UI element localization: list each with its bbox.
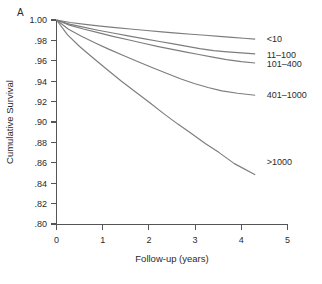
y-tick-label: 1.00	[29, 15, 47, 25]
survival-curves-group	[57, 20, 256, 175]
curve-labels-group: <1011–100101–400401–1000>1000	[267, 34, 307, 167]
y-tick-label: .96	[34, 56, 47, 66]
y-tick-label: .86	[34, 158, 47, 168]
curve-label: 101–400	[267, 59, 302, 69]
x-tick-label: 0	[54, 235, 59, 245]
y-tick-label: .80	[34, 219, 47, 229]
x-tick-label: 4	[239, 235, 244, 245]
survival-plot: A Cumulative Survival Follow-up (years) …	[0, 0, 322, 284]
curve-label: <10	[267, 34, 282, 44]
x-tick-label: 3	[193, 235, 198, 245]
y-tick-label: .84	[34, 179, 47, 189]
survival-chart-figure: A Cumulative Survival Follow-up (years) …	[0, 0, 322, 284]
y-axis-tick-labels: 1.00 .98 .96 .94 .92 .90 .88 .86 .84 .82…	[29, 15, 47, 229]
y-tick-label: .90	[34, 117, 47, 127]
panel-label: A	[17, 7, 24, 18]
y-tick-label: .98	[34, 36, 47, 46]
y-axis-title: Cumulative Survival	[4, 80, 15, 164]
x-axis-tick-labels: 0 1 2 3 4 5	[54, 235, 290, 245]
x-tick-label: 5	[285, 235, 290, 245]
y-tick-label: .94	[34, 77, 47, 87]
survival-curve	[57, 20, 256, 63]
y-tick-label: .92	[34, 97, 47, 107]
x-tick-label: 2	[146, 235, 151, 245]
y-axis-ticks	[51, 20, 56, 224]
x-axis-title: Follow-up (years)	[135, 253, 208, 264]
survival-curve	[57, 20, 256, 175]
curve-label: 401–1000	[267, 90, 307, 100]
y-tick-label: .88	[34, 138, 47, 148]
y-tick-label: .82	[34, 199, 47, 209]
curve-label: >1000	[267, 157, 292, 167]
x-tick-label: 1	[100, 235, 105, 245]
